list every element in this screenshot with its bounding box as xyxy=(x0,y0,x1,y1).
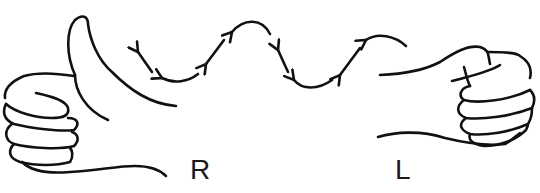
left-hand-fist xyxy=(378,47,534,146)
arrow-segment-6 xyxy=(206,40,224,64)
right-hand-label: R xyxy=(190,156,210,184)
arrow-segment-7 xyxy=(162,74,198,81)
arrow-segment-3 xyxy=(294,80,332,88)
arrow-chain xyxy=(138,22,406,88)
arrow-segment-2 xyxy=(340,48,360,75)
arrow-segment-1 xyxy=(366,36,406,46)
arrow-segment-8 xyxy=(138,52,152,72)
arrow-segment-5 xyxy=(232,22,270,34)
arrow-segment-4 xyxy=(278,50,288,72)
left-hand-label: L xyxy=(395,156,411,184)
hands-diagram xyxy=(0,0,540,193)
right-hand-thumbs-up xyxy=(4,17,176,176)
